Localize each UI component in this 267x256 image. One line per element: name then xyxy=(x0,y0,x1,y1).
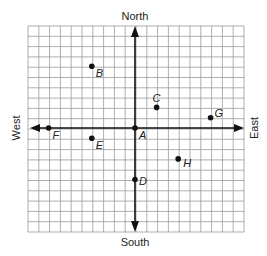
point-label: G xyxy=(215,107,224,119)
north-arrowhead-icon xyxy=(131,26,139,37)
point-label: C xyxy=(153,92,161,104)
point-label: E xyxy=(96,139,104,151)
point-e: E xyxy=(89,136,104,152)
east-arrowhead-icon xyxy=(234,124,244,132)
point-label: B xyxy=(96,67,103,79)
north-label: North xyxy=(122,10,149,22)
point-label: A xyxy=(138,129,146,141)
point-label: D xyxy=(139,175,147,187)
point-dot-icon xyxy=(46,125,52,131)
coordinate-grid-diagram: North South West East ABCDEFGH xyxy=(0,0,267,256)
point-dot-icon xyxy=(132,125,138,131)
point-c: C xyxy=(153,92,161,110)
south-label: South xyxy=(121,236,150,248)
point-dot-icon xyxy=(208,115,214,121)
point-dot-icon xyxy=(175,156,181,162)
west-label: West xyxy=(10,116,22,141)
point-label: H xyxy=(183,157,191,169)
point-b: B xyxy=(89,63,103,79)
south-arrowhead-icon xyxy=(131,221,139,232)
point-dot-icon xyxy=(89,63,95,69)
east-label: East xyxy=(248,117,260,139)
point-dot-icon xyxy=(154,105,160,111)
point-dot-icon xyxy=(132,177,138,183)
point-h: H xyxy=(175,156,191,169)
west-arrowhead-icon xyxy=(30,124,40,132)
point-dot-icon xyxy=(89,136,95,142)
